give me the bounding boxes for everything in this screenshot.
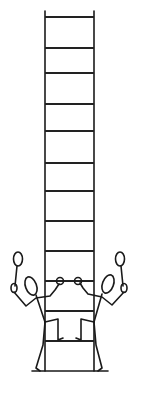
right-racket-head [116,252,125,266]
left-head [23,275,40,297]
right-standing-leg [94,322,102,371]
right-hand [121,284,127,293]
left-torso [36,295,45,322]
right-torso [94,294,102,322]
ladder-illustration [0,0,146,397]
left-raised-leg [45,319,63,340]
right-raised-leg [76,319,94,340]
right-head [100,273,117,295]
left-hand [11,284,17,293]
ladder-drawing [0,0,146,397]
left-standing-leg [36,322,45,371]
left-racket-head [14,252,23,266]
